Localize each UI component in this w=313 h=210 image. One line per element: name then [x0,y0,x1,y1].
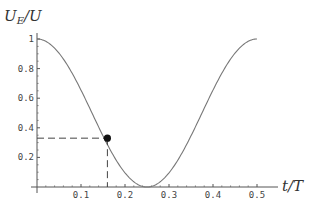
x-tick-label: 0.5 [249,190,265,200]
y-tick-label: 0.4 [18,123,34,133]
x-tick-label: 0.3 [161,190,177,200]
y-tick-label: 1 [29,34,34,44]
y-axis-label: UE/U [4,7,43,26]
data-curve [37,39,257,187]
y-tick-label: 0.8 [18,64,34,74]
y-tick-label: 0.2 [18,152,34,162]
dashed-guides [37,138,107,187]
x-tick-label: 0.2 [117,190,133,200]
axes: 0.10.20.30.40.50.20.40.60.81 [18,33,278,200]
x-axis-label: t/T [282,177,304,195]
y-tick-label: 0.6 [18,93,34,103]
x-tick-label: 0.4 [205,190,221,200]
marked-point [104,135,111,142]
x-tick-label: 0.1 [73,190,89,200]
chart: 0.10.20.30.40.50.20.40.60.81 UE/U t/T [0,0,313,210]
